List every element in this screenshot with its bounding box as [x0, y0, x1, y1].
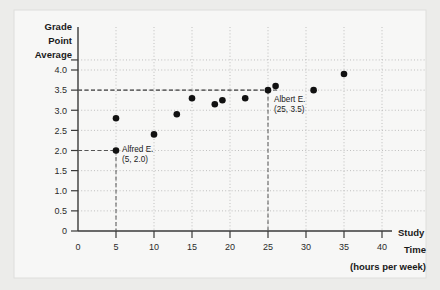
- data-point: [113, 115, 120, 122]
- data-point: [219, 97, 226, 104]
- x-tick-label-35: 35: [339, 242, 349, 252]
- data-point: [113, 147, 120, 154]
- y-tick-label-3.5: 3.5: [54, 85, 67, 95]
- data-point: [212, 101, 219, 108]
- x-tick-label-30: 30: [301, 242, 311, 252]
- y-axis-title-line-2: Point: [48, 35, 73, 46]
- data-point: [272, 83, 279, 90]
- y-tick-label-1.5: 1.5: [54, 166, 67, 176]
- annotation-label-albert-e: Albert E.: [274, 95, 305, 104]
- y-tick-label-3: 3.0: [54, 106, 67, 116]
- y-axis-tick-labels: 00.51.01.52.02.53.03.54.0: [54, 65, 67, 236]
- y-tick-label-1: 1.0: [54, 186, 67, 196]
- x-axis-title-line-3: (hours per week): [350, 261, 426, 272]
- x-tick-label-10: 10: [149, 242, 159, 252]
- data-point: [265, 87, 272, 94]
- data-point: [242, 95, 249, 102]
- annotation-coords-albert-e: (25, 3.5): [274, 105, 305, 114]
- data-point: [174, 111, 181, 118]
- y-tick-label-0.5: 0.5: [54, 206, 67, 216]
- x-tick-label-0: 0: [75, 242, 80, 252]
- data-point: [189, 95, 196, 102]
- annotation-coords-alfred-e: (5, 2.0): [122, 155, 148, 164]
- y-axis-title-line-3: Average: [35, 49, 72, 60]
- chart-figure: 00.51.01.52.02.53.03.54.0 05101520253035…: [0, 0, 440, 290]
- y-tick-label-0: 0: [62, 226, 67, 236]
- x-tick-label-15: 15: [187, 242, 197, 252]
- y-tick-label-2.5: 2.5: [54, 126, 67, 136]
- x-tick-label-25: 25: [263, 242, 273, 252]
- annotation-label-alfred-e: Alfred E.: [122, 145, 153, 154]
- y-tick-label-2: 2.0: [54, 146, 67, 156]
- y-axis-title-line-1: Grade: [45, 21, 72, 32]
- plot-panel-background: [14, 10, 426, 278]
- x-axis-title-line-2: Time: [404, 244, 426, 255]
- x-axis-title-line-1: Study: [398, 227, 425, 238]
- data-point: [341, 71, 348, 78]
- data-point: [310, 87, 317, 94]
- x-tick-label-5: 5: [113, 242, 118, 252]
- scatter-plot: 00.51.01.52.02.53.03.54.0 05101520253035…: [0, 0, 440, 290]
- x-tick-label-20: 20: [225, 242, 235, 252]
- data-point: [151, 131, 158, 138]
- x-tick-label-40: 40: [377, 242, 387, 252]
- y-tick-label-4: 4.0: [54, 65, 67, 75]
